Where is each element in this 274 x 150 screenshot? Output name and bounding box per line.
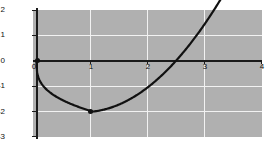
y-tick-label-neg3: -3 — [0, 133, 5, 141]
y-tick-label-1: 1 — [0, 31, 5, 39]
y-tick-label-neg1: -1 — [0, 82, 5, 90]
x-tick-label-4: 4 — [256, 63, 268, 71]
x-tick-label-2: 2 — [142, 63, 154, 71]
minimum-point-marker — [88, 109, 93, 114]
curve-path — [33, 10, 262, 137]
x-tick-label-0: 0 — [28, 63, 40, 71]
x-tick-label-1: 1 — [85, 63, 97, 71]
y-tick-label-neg2: -2 — [0, 108, 5, 116]
x-tick-label-3: 3 — [199, 63, 211, 71]
plot-area — [33, 10, 262, 137]
y-tick-label-0: 0 — [0, 57, 5, 65]
y-tick-label-2: 2 — [0, 6, 5, 14]
chart-figure: 2 1 0 -1 -2 -3 0 1 — [0, 0, 274, 150]
